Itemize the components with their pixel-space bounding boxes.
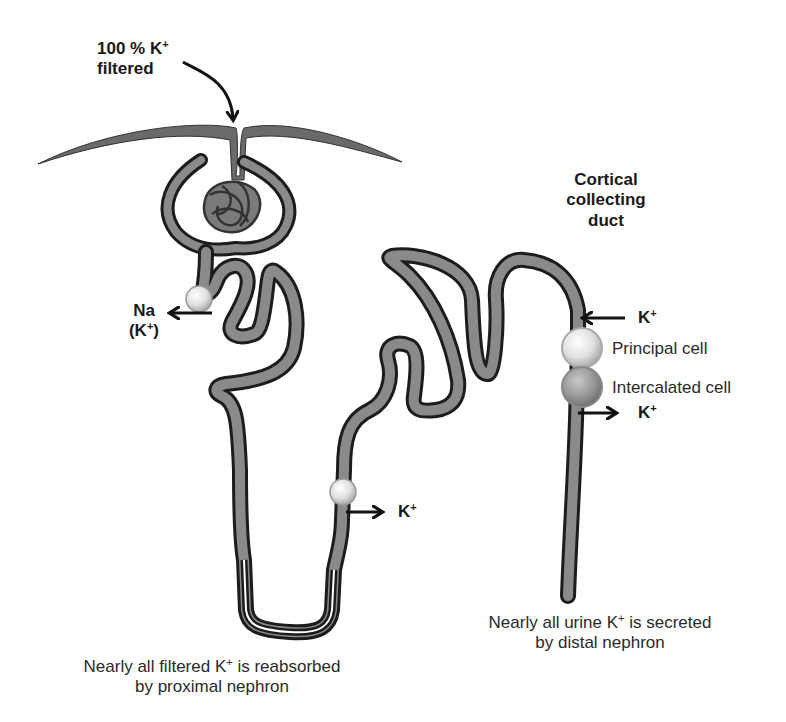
cortical-collecting-duct-label: Cortical collecting duct xyxy=(562,170,650,231)
na-k-label: Na (K+) xyxy=(122,301,166,342)
glomerulus xyxy=(204,182,260,232)
loop-of-henle-cell xyxy=(330,479,356,505)
k-loop-label: K+ xyxy=(398,502,417,522)
proximal-tubule-cell xyxy=(186,286,212,312)
filtered-arrow xyxy=(183,62,233,118)
k-in-label: K+ xyxy=(638,308,657,328)
caption-distal: Nearly all urine K+ is secreted by dista… xyxy=(450,613,750,654)
intercalated-cell xyxy=(562,367,602,407)
principal-cell xyxy=(562,328,602,368)
afferent-arteriole xyxy=(38,125,402,180)
k-out-label: K+ xyxy=(638,403,657,423)
principal-cell-label: Principal cell xyxy=(612,339,707,359)
filtered-label: 100 % K+ filtered xyxy=(97,39,169,80)
nephron-tubule xyxy=(202,252,578,632)
caption-proximal: Nearly all filtered K+ is reabsorbed by … xyxy=(52,657,372,698)
intercalated-cell-label: Intercalated cell xyxy=(612,378,731,398)
